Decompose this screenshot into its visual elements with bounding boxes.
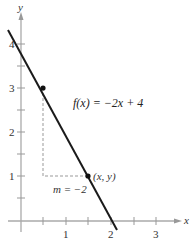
- function-line: [8, 30, 117, 230]
- x-axis-arrow-icon: [174, 219, 182, 224]
- equation-label: f(x) = −2x + 4: [73, 96, 143, 110]
- x-tick-label-3: 3: [153, 228, 159, 240]
- y-tick-label-1: 1: [9, 170, 15, 182]
- y-tick-label-2: 2: [9, 126, 15, 138]
- slope-label: m = −2: [53, 183, 87, 195]
- x-tick-label-2: 2: [108, 228, 114, 240]
- point-x-y: [85, 173, 90, 178]
- function-graph: 1 2 3 1 2 3 4 y x f(x) = −2x + 4 (x, y) …: [0, 0, 194, 244]
- point-0.5-3: [40, 85, 45, 90]
- y-tick-label-3: 3: [9, 82, 15, 94]
- y-axis-label: y: [17, 1, 23, 13]
- x-tick-label-1: 1: [63, 228, 69, 240]
- x-axis-label: x: [183, 214, 189, 226]
- point-label: (x, y): [93, 170, 116, 183]
- y-axis-arrow-icon: [19, 12, 24, 20]
